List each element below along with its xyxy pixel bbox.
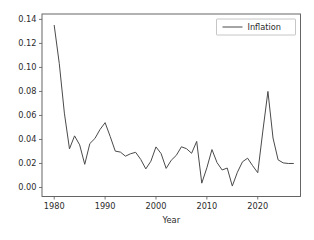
- y-tick-label: 0.10: [18, 62, 36, 72]
- chart-legend: Inflation: [217, 19, 296, 35]
- inflation-line-chart: 0.000.020.040.060.080.100.120.14 1980199…: [0, 0, 314, 240]
- y-tick-label: 0.04: [18, 134, 36, 144]
- chart-figure: 0.000.020.040.060.080.100.120.14 1980199…: [0, 0, 314, 240]
- x-tick-label: 2010: [196, 201, 217, 211]
- y-tick-label: 0.06: [18, 110, 36, 120]
- x-tick-label: 1980: [44, 201, 65, 211]
- y-tick-label: 0.12: [18, 38, 36, 48]
- x-tick-label: 2000: [146, 201, 167, 211]
- y-tick-label: 0.08: [18, 86, 36, 96]
- y-tick-label: 0.00: [18, 182, 36, 192]
- y-tick-label: 0.14: [18, 14, 36, 24]
- x-tick-label: 2020: [247, 201, 268, 211]
- axes-background: [42, 14, 301, 197]
- x-tick-label: 1990: [95, 201, 116, 211]
- x-axis-label: Year: [161, 215, 180, 225]
- legend-label-inflation: Inflation: [248, 22, 281, 32]
- y-tick-label: 0.02: [18, 158, 36, 168]
